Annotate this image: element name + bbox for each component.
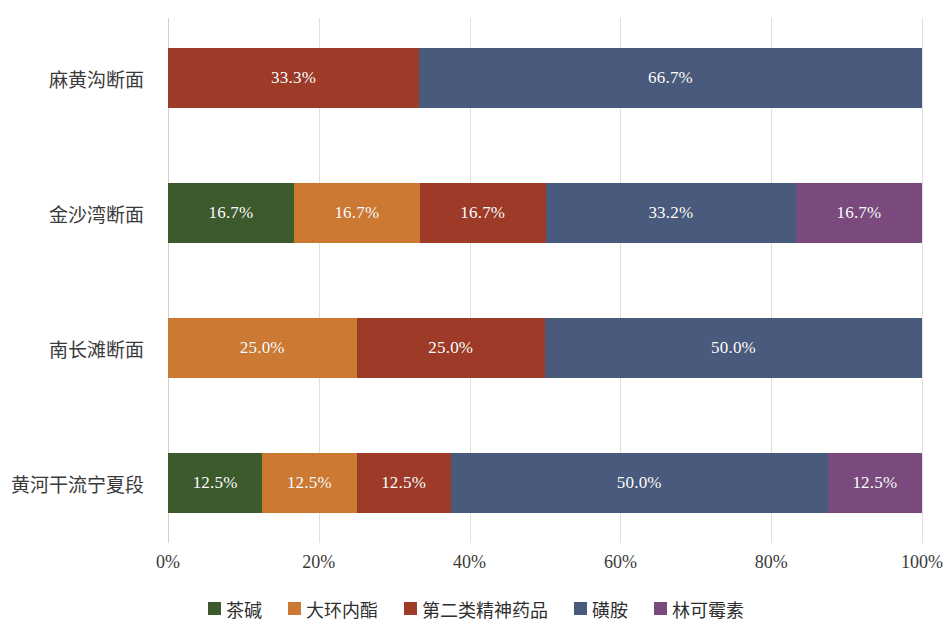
bar-segment-label: 16.7% — [837, 203, 882, 223]
bar-segment-label: 12.5% — [381, 473, 426, 493]
legend-swatch-icon — [404, 602, 417, 615]
category-label-text: 金沙湾断面 — [49, 200, 144, 227]
legend-item-4[interactable]: 磺胺 — [574, 596, 628, 621]
bar-segment[interactable]: 33.3% — [168, 48, 419, 108]
category-label-text: 麻黄沟断面 — [49, 65, 144, 92]
legend-swatch-icon — [208, 602, 221, 615]
bar-segment[interactable]: 50.0% — [451, 453, 828, 513]
legend-label: 茶碱 — [226, 596, 262, 621]
x-tick-label: 20% — [302, 552, 335, 573]
bar-segment[interactable]: 12.5% — [357, 453, 451, 513]
bar-segment[interactable]: 25.0% — [357, 318, 546, 378]
gridline-100% — [922, 18, 923, 543]
legend-label: 大环内酯 — [306, 596, 378, 621]
x-axis-tick-labels: 0%20%40%60%80%100% — [168, 552, 922, 580]
bar-segment-label: 12.5% — [852, 473, 897, 493]
bar-row: 25.0%25.0%50.0% — [168, 318, 922, 378]
bar-segment[interactable]: 25.0% — [168, 318, 357, 378]
category-label-4: 黄河干流宁夏段 — [0, 453, 156, 513]
x-tick-label: 80% — [755, 552, 788, 573]
bar-segment-label: 50.0% — [617, 473, 662, 493]
bar-segment[interactable]: 16.7% — [420, 183, 546, 243]
category-label-text: 黄河干流宁夏段 — [11, 470, 144, 497]
bar-row: 12.5%12.5%12.5%50.0%12.5% — [168, 453, 922, 513]
bar-segment[interactable]: 16.7% — [294, 183, 420, 243]
bar-segment[interactable]: 16.7% — [168, 183, 294, 243]
legend-swatch-icon — [288, 602, 301, 615]
legend-label: 第二类精神药品 — [422, 596, 548, 621]
bar-segment-label: 66.7% — [648, 68, 693, 88]
x-tick-label: 40% — [453, 552, 486, 573]
bar-segment[interactable]: 16.7% — [796, 183, 922, 243]
x-tick-label: 0% — [156, 552, 180, 573]
bar-segment-label: 12.5% — [287, 473, 332, 493]
bar-segment[interactable]: 50.0% — [545, 318, 922, 378]
bar-segment-label: 33.2% — [648, 203, 693, 223]
bar-segment-label: 16.7% — [460, 203, 505, 223]
bar-segment-label: 16.7% — [334, 203, 379, 223]
legend-item-1[interactable]: 茶碱 — [208, 596, 262, 621]
stacked-bar-chart: 33.3%66.7%16.7%16.7%16.7%33.2%16.7%25.0%… — [0, 0, 951, 621]
legend-label: 磺胺 — [592, 596, 628, 621]
legend-item-5[interactable]: 林可霉素 — [654, 596, 744, 621]
bar-segment-label: 12.5% — [193, 473, 238, 493]
bar-segment-label: 50.0% — [711, 338, 756, 358]
category-label-text: 南长滩断面 — [49, 335, 144, 362]
bar-segment-label: 25.0% — [428, 338, 473, 358]
bar-segment[interactable]: 12.5% — [262, 453, 356, 513]
bar-row: 16.7%16.7%16.7%33.2%16.7% — [168, 183, 922, 243]
x-tick-label: 60% — [604, 552, 637, 573]
legend: 茶碱大环内酯第二类精神药品磺胺林可霉素 — [0, 596, 951, 621]
legend-swatch-icon — [654, 602, 667, 615]
x-tick-label: 100% — [901, 552, 943, 573]
bar-segment-label: 33.3% — [271, 68, 316, 88]
bar-segment-label: 16.7% — [208, 203, 253, 223]
bar-row: 33.3%66.7% — [168, 48, 922, 108]
bar-segment-label: 25.0% — [240, 338, 285, 358]
bar-segment[interactable]: 33.2% — [546, 183, 796, 243]
legend-item-2[interactable]: 大环内酯 — [288, 596, 378, 621]
bar-segment[interactable]: 66.7% — [419, 48, 922, 108]
legend-label: 林可霉素 — [672, 596, 744, 621]
legend-item-3[interactable]: 第二类精神药品 — [404, 596, 548, 621]
category-label-1: 麻黄沟断面 — [0, 48, 156, 108]
legend-swatch-icon — [574, 602, 587, 615]
category-label-3: 南长滩断面 — [0, 318, 156, 378]
bar-segment[interactable]: 12.5% — [168, 453, 262, 513]
plot-area: 33.3%66.7%16.7%16.7%16.7%33.2%16.7%25.0%… — [168, 18, 922, 543]
category-label-2: 金沙湾断面 — [0, 183, 156, 243]
bar-segment[interactable]: 12.5% — [828, 453, 922, 513]
